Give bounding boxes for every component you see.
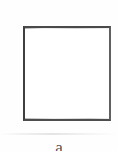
- figure-caption-label: a: [0, 139, 118, 151]
- figure-canvas: a: [0, 0, 118, 151]
- figure-caption: a: [0, 133, 118, 151]
- rectangle-interior: [25, 28, 109, 119]
- rectangle-shape: [23, 26, 111, 121]
